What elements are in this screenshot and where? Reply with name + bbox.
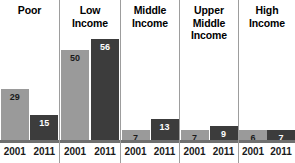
group-title: High Income xyxy=(239,0,295,29)
axis-label-2001: 2001 xyxy=(0,146,30,158)
bar-value-label: 50 xyxy=(61,53,89,63)
axis-label-2001: 2001 xyxy=(121,146,150,158)
bar-slot-2001: 6 xyxy=(239,29,267,143)
bar-value-label: 13 xyxy=(151,122,179,132)
bar-slot-2011: 9 xyxy=(209,42,238,144)
bar-2001[interactable]: 29 xyxy=(1,89,29,143)
group-plot-area: 79 xyxy=(180,42,238,144)
bar-slot-2011: 13 xyxy=(150,29,179,143)
axis-tick-labels: 20012011 xyxy=(60,143,120,163)
baseline-rule xyxy=(180,140,238,143)
axis-tick-labels: 20012011 xyxy=(239,143,295,163)
group-plot-area: 713 xyxy=(121,29,179,143)
bar-value-label: 56 xyxy=(91,42,119,52)
bar-value-label: 29 xyxy=(1,92,29,102)
baseline-rule xyxy=(60,140,120,143)
bar-2001[interactable]: 50 xyxy=(61,50,89,143)
axis-label-2011: 2011 xyxy=(209,146,238,158)
bar-value-label: 15 xyxy=(30,118,58,128)
bar-slot-2001: 7 xyxy=(121,29,150,143)
axis-label-2011: 2011 xyxy=(150,146,179,158)
axis-label-2011: 2011 xyxy=(90,146,120,158)
group-title: Upper Middle Income xyxy=(180,0,238,42)
bar-slot-2001: 7 xyxy=(180,42,209,144)
group-plot-area: 5056 xyxy=(60,29,120,143)
bar-2011[interactable]: 15 xyxy=(30,115,58,143)
group-title: Middle Income xyxy=(121,0,179,29)
chart-group-4: Upper Middle Income7920012011 xyxy=(179,0,238,163)
axis-tick-labels: 20012011 xyxy=(0,143,59,163)
axis-label-2011: 2011 xyxy=(30,146,60,158)
grouped-bar-chart: Poor291520012011Low Income505620012011Mi… xyxy=(0,0,295,163)
chart-groups: Poor291520012011Low Income505620012011Mi… xyxy=(0,0,295,163)
axis-tick-labels: 20012011 xyxy=(121,143,179,163)
bar-slot-2001: 50 xyxy=(60,29,90,143)
chart-group-1: Poor291520012011 xyxy=(0,0,59,163)
bar-slot-2011: 56 xyxy=(90,29,120,143)
group-plot-area: 67 xyxy=(239,29,295,143)
axis-label-2001: 2001 xyxy=(239,146,267,158)
baseline-rule xyxy=(239,140,295,143)
group-plot-area: 2915 xyxy=(0,17,59,144)
chart-group-2: Low Income505620012011 xyxy=(59,0,120,163)
bar-slot-2011: 7 xyxy=(267,29,295,143)
baseline-rule xyxy=(0,140,59,143)
chart-group-5: High Income6720012011 xyxy=(238,0,295,163)
baseline-rule xyxy=(121,140,179,143)
axis-label-2001: 2001 xyxy=(60,146,90,158)
axis-label-2001: 2001 xyxy=(180,146,209,158)
bar-2011[interactable]: 56 xyxy=(91,39,119,143)
group-title: Low Income xyxy=(60,0,120,29)
axis-label-2011: 2011 xyxy=(267,146,295,158)
group-title: Poor xyxy=(0,0,59,17)
bar-slot-2001: 29 xyxy=(0,17,30,144)
bar-value-label: 9 xyxy=(210,129,238,139)
chart-group-3: Middle Income71320012011 xyxy=(120,0,179,163)
bar-slot-2011: 15 xyxy=(30,17,60,144)
axis-tick-labels: 20012011 xyxy=(180,143,238,163)
